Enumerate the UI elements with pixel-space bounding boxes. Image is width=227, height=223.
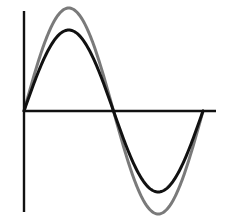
plot-area bbox=[0, 0, 227, 223]
sine-wave-diagram bbox=[0, 0, 227, 223]
